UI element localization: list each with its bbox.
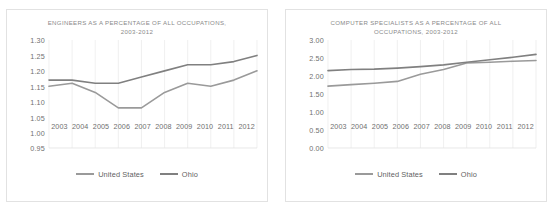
y-axis-tick: 1.15	[30, 82, 45, 91]
y-axis-tick: 2.50	[309, 54, 324, 63]
x-axis-tick: 2005	[370, 122, 391, 131]
y-axis-tick: 1.00	[30, 128, 45, 137]
x-axis-tick: 2004	[70, 122, 91, 131]
y-axis-tick: 0.50	[309, 126, 324, 135]
legend-item[interactable]: Ohio	[160, 170, 198, 179]
series-line-united-states	[328, 61, 536, 87]
x-axis-labels: 2003200420052006200720082009201020112012	[328, 122, 536, 134]
x-axis-tick: 2011	[494, 122, 515, 131]
charts-canvas: ENGINEERS AS A PERCENTAGE OF ALL OCCUPAT…	[0, 0, 553, 210]
legend-line-swatch	[439, 173, 457, 175]
x-axis-tick: 2012	[236, 122, 257, 131]
x-axis-tick: 2003	[49, 122, 70, 131]
y-axis-tick: 1.10	[30, 98, 45, 107]
legend-label: United States	[377, 170, 423, 179]
legend-line-swatch	[355, 173, 373, 175]
chart-title-line2: 2003-2012	[23, 27, 251, 36]
y-axis-tick: 1.05	[30, 113, 45, 122]
x-axis-tick: 2008	[432, 122, 453, 131]
x-axis-tick: 2011	[215, 122, 236, 131]
x-axis-labels: 2003200420052006200720082009201020112012	[49, 122, 257, 134]
x-axis-tick: 2012	[515, 122, 536, 131]
series-line-united-states	[49, 71, 257, 108]
y-axis-tick: 1.00	[309, 108, 324, 117]
chart-title-line1: ENGINEERS AS A PERCENTAGE OF ALL OCCUPAT…	[48, 19, 227, 26]
legend-line-swatch	[160, 173, 178, 175]
x-axis-tick: 2008	[153, 122, 174, 131]
legend-item[interactable]: United States	[355, 170, 423, 179]
chart-title-line1: COMPUTER SPECIALISTS AS A PERCENTAGE OF …	[330, 19, 501, 26]
chart-title: COMPUTER SPECIALISTS AS A PERCENTAGE OF …	[286, 10, 546, 37]
legend-label: Ohio	[182, 170, 198, 179]
x-axis-tick: 2005	[91, 122, 112, 131]
x-axis-tick: 2006	[111, 122, 132, 131]
legend-line-swatch	[76, 173, 94, 175]
y-axis-tick: 0.95	[30, 144, 45, 153]
series-line-ohio	[328, 55, 536, 71]
y-axis-tick: 2.00	[309, 72, 324, 81]
y-axis-tick: 3.00	[309, 36, 324, 45]
chart-legend: United StatesOhio	[7, 170, 267, 179]
x-axis-tick: 2007	[411, 122, 432, 131]
x-axis-tick: 2003	[328, 122, 349, 131]
chart-legend: United StatesOhio	[286, 170, 546, 179]
x-axis-tick: 2009	[174, 122, 195, 131]
chart-title: ENGINEERS AS A PERCENTAGE OF ALL OCCUPAT…	[7, 10, 267, 37]
legend-label: United States	[98, 170, 144, 179]
legend-item[interactable]: Ohio	[439, 170, 477, 179]
series-line-ohio	[49, 56, 257, 84]
chart-title-line2: OCCUPATIONS, 2003-2012	[302, 27, 530, 36]
y-axis-tick: 1.20	[30, 67, 45, 76]
y-axis-tick: 1.25	[30, 51, 45, 60]
legend-item[interactable]: United States	[76, 170, 144, 179]
y-axis-labels: 0.000.501.001.502.002.503.00	[294, 40, 324, 148]
engineers-chart-panel: ENGINEERS AS A PERCENTAGE OF ALL OCCUPAT…	[6, 9, 268, 202]
x-axis-tick: 2009	[453, 122, 474, 131]
legend-label: Ohio	[461, 170, 477, 179]
y-axis-tick: 0.00	[309, 144, 324, 153]
y-axis-tick: 1.50	[309, 90, 324, 99]
computer-specialists-chart-panel: COMPUTER SPECIALISTS AS A PERCENTAGE OF …	[285, 9, 547, 202]
x-axis-tick: 2004	[349, 122, 370, 131]
y-axis-labels: 0.951.001.051.101.151.201.251.30	[15, 40, 45, 148]
y-axis-tick: 1.30	[30, 36, 45, 45]
x-axis-tick: 2007	[132, 122, 153, 131]
x-axis-tick: 2006	[390, 122, 411, 131]
x-axis-tick: 2010	[474, 122, 495, 131]
x-axis-tick: 2010	[195, 122, 216, 131]
